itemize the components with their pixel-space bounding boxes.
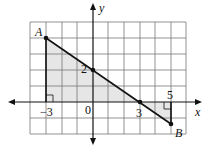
label-zero: 0 xyxy=(85,104,91,116)
y-axis-arrow-down xyxy=(90,138,96,145)
label-x-axis: x xyxy=(195,106,200,118)
label-two: 2 xyxy=(81,63,87,75)
y-axis-arrow-up xyxy=(90,3,96,10)
coordinate-plane xyxy=(0,0,210,146)
label-y-axis: y xyxy=(99,2,104,14)
point-a xyxy=(44,36,49,41)
label-a: A xyxy=(35,26,42,38)
point-y-intercept xyxy=(91,68,96,73)
label-five: 5 xyxy=(167,89,173,101)
x-axis-arrow-left xyxy=(8,99,15,105)
label-b: B xyxy=(175,127,182,139)
label-three: 3 xyxy=(136,107,142,119)
point-b xyxy=(169,122,174,127)
point-x-intercept xyxy=(138,100,143,105)
label-neg-three: −3 xyxy=(40,106,53,118)
